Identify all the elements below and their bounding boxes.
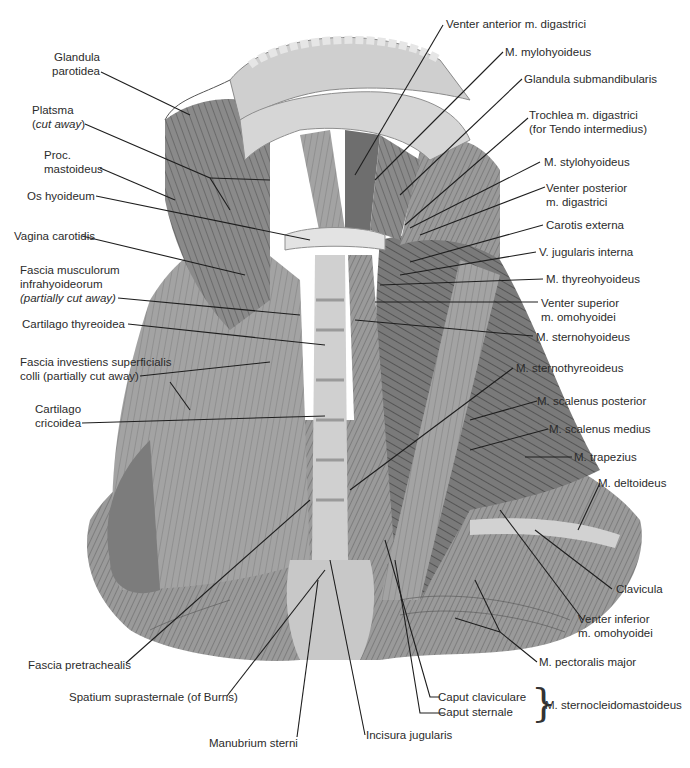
label-incisura-jugularis: Incisura jugularis (366, 728, 452, 742)
label-line: M. sternohyoideus (536, 330, 630, 344)
label-m-stylohyoideus: M. stylohyoideus (544, 155, 630, 169)
label-venter-posterior-digastrici: Venter posterior m. digastrici (546, 181, 627, 209)
label-line: Cartilago (35, 402, 81, 416)
label-caput-sternale: Caput sternale (438, 705, 513, 719)
label-venter-superior-omohyoidei: Venter superior m. omohyoidei (541, 296, 619, 324)
label-proc-mastoideus: Proc. mastoideus (44, 148, 103, 176)
label-line: Fascia pretrachealis (28, 658, 131, 672)
label-line: Glandula submandibularis (524, 72, 657, 86)
label-m-mylohyoideus: M. mylohyoideus (505, 45, 591, 59)
label-manubrium-sterni: Manubrium sterni (209, 736, 298, 750)
label-line: M. pectoralis major (539, 655, 636, 669)
label-fascia-musculorum-infrahyoideorum: Fascia musculorum infrahyoideorum (parti… (20, 263, 120, 305)
label-m-sternocleidomastoideus: M. sternocleidomastoideus (545, 698, 682, 712)
label-line: Cartilago thyreoidea (22, 317, 125, 331)
label-line: colli (partially cut away) (20, 369, 171, 383)
label-line: Trochlea m. digastrici (529, 108, 647, 122)
label-line: Caput sternale (438, 705, 513, 719)
label-venter-anterior-digastrici: Venter anterior m. digastrici (446, 17, 586, 31)
label-line: Glandula (20, 50, 100, 64)
anatomy-figure: Glandula parotidea Platsma (cut away) Pr… (0, 0, 690, 768)
label-line: Caput claviculare (438, 690, 526, 704)
label-m-pectoralis-major: M. pectoralis major (539, 655, 636, 669)
label-line: (for Tendo intermedius) (529, 122, 647, 136)
label-line: Venter inferior (578, 612, 653, 626)
label-trochlea-digastrici: Trochlea m. digastrici (for Tendo interm… (529, 108, 647, 136)
label-line: (cut away) (32, 117, 85, 131)
label-glandula-parotidea: Glandula parotidea (20, 50, 100, 78)
label-line: Incisura jugularis (366, 728, 452, 742)
label-fascia-investiens: Fascia investiens superficialis colli (p… (20, 355, 171, 383)
label-line: M. sternocleidomastoideus (545, 698, 682, 712)
label-line: M. thyreohyoideus (546, 272, 640, 286)
label-line: Clavicula (616, 582, 663, 596)
label-line: infrahyoideorum (20, 277, 120, 291)
label-v-jugularis-interna: V. jugularis interna (539, 245, 633, 259)
label-spatium-suprasternale: Spatium suprasternale (of Burns) (69, 690, 238, 704)
label-italic: cut away (36, 118, 81, 130)
label-line: Venter superior (541, 296, 619, 310)
label-m-scalenus-posterior: M. scalenus posterior (537, 394, 646, 408)
label-cartilago-cricoidea: Cartilago cricoidea (35, 402, 81, 430)
label-m-scalenus-medius: M. scalenus medius (549, 422, 651, 436)
label-line: V. jugularis interna (539, 245, 633, 259)
label-line: M. trapezius (574, 450, 637, 464)
label-line: M. scalenus medius (549, 422, 651, 436)
label-line: Fascia musculorum (20, 263, 120, 277)
label-line: M. sternothyreoideus (516, 361, 623, 375)
label-line: M. stylohyoideus (544, 155, 630, 169)
label-line: cricoidea (35, 416, 81, 430)
label-os-hyoideum: Os hyoideum (27, 189, 95, 203)
label-line: Vagina carotidis (14, 229, 95, 243)
label-line: m. omohyoidei (578, 626, 653, 640)
label-line: mastoideus (44, 162, 103, 176)
label-line: Spatium suprasternale (of Burns) (69, 690, 238, 704)
label-line: Manubrium sterni (209, 736, 298, 750)
label-vagina-carotidis: Vagina carotidis (14, 229, 95, 243)
label-line: Platsma (32, 103, 85, 117)
label-line: Os hyoideum (27, 189, 95, 203)
label-m-deltoideus: M. deltoideus (598, 476, 666, 490)
label-line: Venter posterior (546, 181, 627, 195)
label-line: M. deltoideus (598, 476, 666, 490)
label-glandula-submandibularis: Glandula submandibularis (524, 72, 657, 86)
label-line: Fascia investiens superficialis (20, 355, 171, 369)
label-m-trapezius: M. trapezius (574, 450, 637, 464)
label-line: Proc. (44, 148, 103, 162)
label-platysma: Platsma (cut away) (32, 103, 85, 131)
label-line: parotidea (20, 64, 100, 78)
label-carotis-externa: Carotis externa (546, 218, 624, 232)
label-venter-inferior-omohyoidei: Venter inferior m. omohyoidei (578, 612, 653, 640)
label-line: Venter anterior m. digastrici (446, 17, 586, 31)
label-line: Carotis externa (546, 218, 624, 232)
label-line: M. mylohyoideus (505, 45, 591, 59)
label-m-sternohyoideus: M. sternohyoideus (536, 330, 630, 344)
label-line: m. omohyoidei (541, 310, 619, 324)
label-cartilago-thyreoidea: Cartilago thyreoidea (22, 317, 125, 331)
label-m-sternothyreoideus: M. sternothyreoideus (516, 361, 623, 375)
label-clavicula: Clavicula (616, 582, 663, 596)
label-line: m. digastrici (546, 195, 627, 209)
label-caput-claviculare: Caput claviculare (438, 690, 526, 704)
label-m-thyreohyoideus: M. thyreohyoideus (546, 272, 640, 286)
label-line: M. scalenus posterior (537, 394, 646, 408)
label-fascia-pretrachealis: Fascia pretrachealis (28, 658, 131, 672)
label-line: (partially cut away) (20, 291, 120, 305)
